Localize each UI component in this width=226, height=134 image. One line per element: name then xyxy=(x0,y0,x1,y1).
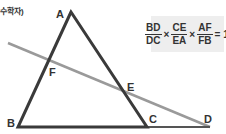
menelaus-formula: BD DC × CE EA × AF FB = 1 xyxy=(151,16,224,52)
triangle-abc xyxy=(18,12,147,127)
label-d: D xyxy=(204,114,212,125)
fraction-ce-ea: CE EA xyxy=(171,23,187,46)
fraction-af-fb: AF FB xyxy=(197,23,212,46)
label-e: E xyxy=(127,82,134,93)
times-sign: × xyxy=(164,29,170,40)
label-f: F xyxy=(49,67,56,78)
label-a: A xyxy=(56,9,64,20)
label-c: C xyxy=(149,114,157,125)
times-sign: × xyxy=(189,29,195,40)
equals-sign: = xyxy=(215,29,221,40)
label-b: B xyxy=(7,118,15,129)
fraction-bd-dc: BD DC xyxy=(145,23,161,46)
formula-result: 1 xyxy=(223,29,226,40)
